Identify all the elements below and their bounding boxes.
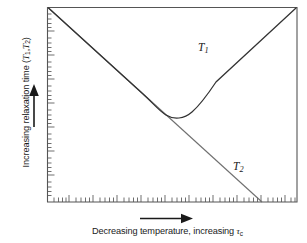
y-axis-label-t2: T: [21, 44, 31, 49]
plot-canvas: [0, 0, 307, 243]
curve-label-t1-subscript: 1: [204, 46, 208, 55]
x-axis-label-tau-subscript: c: [240, 230, 243, 237]
x-axis-label: Decreasing temperature, increasing τc: [60, 226, 275, 237]
curve-label-t2-subscript: 2: [239, 165, 243, 174]
y-axis-label: Increasing relaxation time (T1,T2): [21, 7, 32, 197]
y-axis-label-t2-subscript: 2: [24, 40, 31, 44]
plot-frame: [48, 8, 298, 203]
y-axis-label-prefix: Increasing relaxation time (: [21, 60, 31, 168]
y-axis-label-t1: T: [21, 55, 31, 60]
y-axis-label-suffix: ): [21, 37, 31, 40]
x-direction-arrow-icon: [140, 214, 193, 224]
curve-label-t1: T1: [198, 41, 209, 55]
y-axis-label-t1-subscript: 1: [24, 51, 31, 55]
figure-root: Increasing relaxation time (T1,T2) Decre…: [0, 0, 307, 243]
x-axis-label-prefix: Decreasing temperature, increasing: [92, 226, 237, 236]
y-axis-ticks: [48, 14, 55, 196]
curve-label-t2: T2: [233, 160, 244, 174]
curve-t1: [49, 8, 297, 118]
